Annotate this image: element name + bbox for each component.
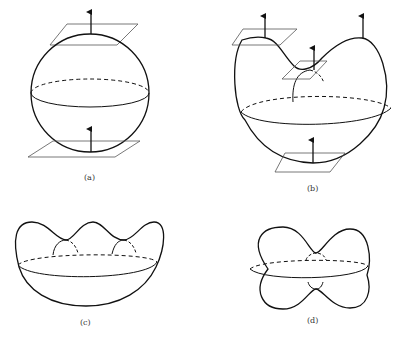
saddle-curve-right bbox=[112, 240, 124, 254]
panel-d-label: (d) bbox=[307, 316, 318, 325]
panel-a-sphere bbox=[28, 12, 149, 157]
figure-canvas bbox=[0, 0, 401, 337]
saddle-curve-bottom bbox=[308, 282, 323, 289]
saddle-curve-left bbox=[53, 240, 66, 255]
panel-c-surface bbox=[15, 222, 163, 306]
surface-outline bbox=[15, 222, 163, 306]
equator-back bbox=[241, 96, 391, 112]
panel-a-label: (a) bbox=[84, 173, 95, 182]
panel-d-surface bbox=[250, 227, 369, 309]
panel-c-label: (c) bbox=[80, 318, 91, 327]
equator-front bbox=[18, 262, 157, 277]
saddle-curve-left-hidden bbox=[66, 240, 78, 253]
tangent-plane-bottom bbox=[28, 141, 140, 157]
equator-front bbox=[31, 93, 149, 107]
saddle-curve-top bbox=[306, 253, 326, 260]
equator-back bbox=[18, 255, 157, 265]
surface-outline bbox=[258, 227, 369, 309]
sphere-outline bbox=[31, 34, 149, 152]
panel-b-surface bbox=[232, 16, 391, 172]
panel-b-label: (b) bbox=[307, 184, 318, 193]
surface-outline bbox=[235, 37, 387, 163]
equator-back bbox=[31, 79, 149, 93]
equator-front bbox=[241, 108, 391, 124]
saddle-curve-right-hidden bbox=[124, 240, 136, 253]
